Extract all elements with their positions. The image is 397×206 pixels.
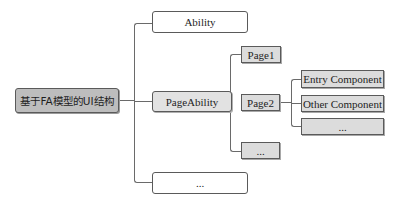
node-pageability: PageAbility <box>152 91 232 112</box>
connector-trunk3-to-other-component <box>291 103 301 104</box>
node-page1: Page1 <box>241 46 281 63</box>
root-node-fa-ui-structure: 基于FA模型的UI结构 <box>15 88 119 113</box>
node-ability: Ability <box>152 11 248 33</box>
connector-trunk3-bottom-corner <box>291 102 301 127</box>
node-other-component: Other Component <box>301 95 384 112</box>
connector-trunk3-top-corner <box>291 79 301 103</box>
tree-diagram: 基于FA模型的UI结构 Ability PageAbility ... Page… <box>0 0 397 206</box>
connector-page2-to-trunk3 <box>280 102 291 103</box>
connector-root-to-trunk <box>119 100 134 101</box>
node-entry-component: Entry Component <box>301 70 384 88</box>
connector-trunk-top-corner <box>134 23 152 101</box>
node-level1-ellipsis: ... <box>152 172 248 194</box>
node-level3-ellipsis: ... <box>301 118 384 135</box>
connector-trunk-bottom-corner <box>134 100 152 183</box>
node-level2-ellipsis: ... <box>241 142 280 159</box>
connector-trunk-to-pageability <box>134 101 152 102</box>
node-page2: Page2 <box>241 94 280 111</box>
